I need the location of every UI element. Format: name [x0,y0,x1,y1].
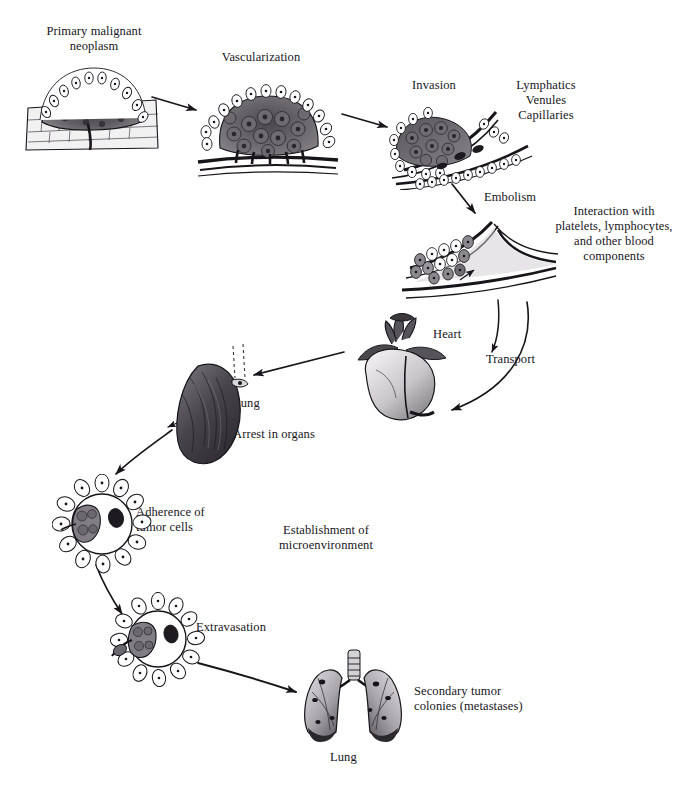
label-vascularization: Vascularization [196,50,326,65]
label-secondary-colonies: Secondary tumor colonies (metastases) [414,684,584,714]
label-embolism: Embolism [484,190,536,205]
arrow-lung-to-adherence [116,430,172,474]
heart-art [346,312,456,430]
embolism-art [398,216,558,302]
label-adherence: Adherence of tumor cells [136,505,256,535]
label-transport: Transport [486,352,535,367]
label-invasion: Invasion [396,78,472,93]
arrow-vascularization-to-invasion [342,114,387,127]
arrow-extravasation-to-metastases [198,663,296,692]
arrow-heart-to-lung [254,352,344,375]
label-establishment: Establishment of microenvironment [246,523,406,553]
label-extravasation: Extravasation [196,620,266,635]
adherence-art [52,474,152,574]
label-lung-secondary: Lung [330,750,357,765]
label-interaction: Interaction with platelets, lymphocytes,… [540,204,688,264]
invasion-art [386,104,534,190]
arrow-embolism-to-heart [492,300,499,352]
lungs-metastases-art [298,648,410,748]
lung-arrest-art [168,358,258,468]
primary-tumor-art [22,62,162,154]
metastatic-cascade-figure: Primary malignant neoplasm [0,0,688,786]
vascularized-tumor-art [194,84,342,182]
extravasation-art [110,592,206,688]
label-primary-neoplasm: Primary malignant neoplasm [24,24,164,54]
